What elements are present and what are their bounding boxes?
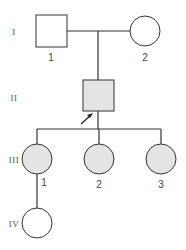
individual-i-2-label: 2	[142, 52, 148, 63]
individual-iii-3-label: 3	[158, 179, 164, 190]
pedigree-diagram: I II III IV 1 2 1 2 3	[0, 0, 186, 250]
individual-iii-3-affected-female	[146, 144, 176, 174]
individual-iii-2-label: 2	[96, 179, 102, 190]
individual-iii-1-label: 1	[41, 177, 47, 188]
individual-i-2-female	[130, 16, 160, 46]
individual-i-1-male	[36, 15, 67, 47]
individual-iii-1-affected-female	[22, 144, 52, 174]
individual-iii-2-affected-female	[84, 144, 114, 174]
generation-label-iii: III	[9, 155, 20, 165]
individual-ii-1-affected-male	[83, 80, 114, 111]
generation-label-ii: II	[11, 93, 18, 103]
generation-label-iv: IV	[9, 219, 20, 229]
individual-iv-1-female	[22, 208, 52, 238]
generation-label-i: I	[12, 27, 16, 37]
individual-i-1-label: 1	[48, 52, 54, 63]
